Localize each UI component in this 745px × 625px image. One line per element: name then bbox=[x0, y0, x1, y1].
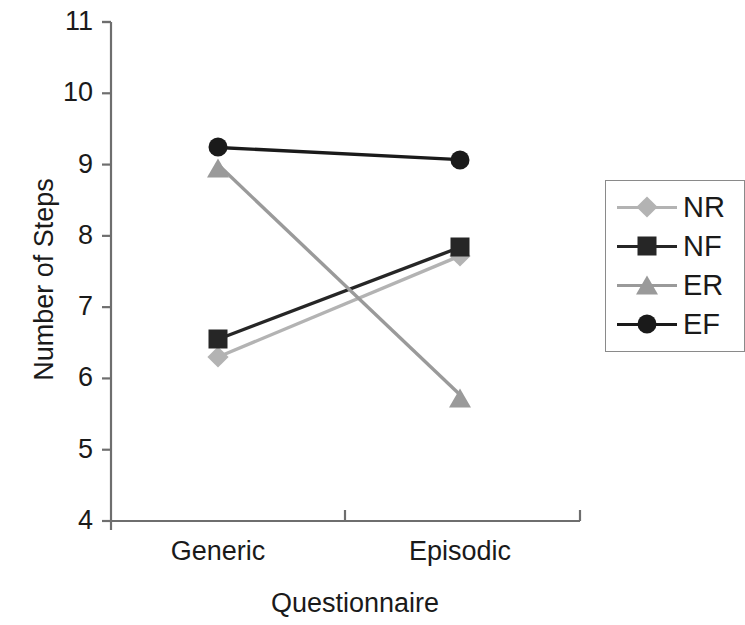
y-tick-label: 5 bbox=[33, 436, 93, 463]
y-tick-label: 7 bbox=[33, 293, 93, 320]
series-lines bbox=[218, 147, 460, 394]
legend-label: NF bbox=[683, 232, 722, 261]
legend-item-er[interactable]: ER bbox=[606, 268, 745, 302]
y-tick-label: 4 bbox=[33, 507, 93, 534]
data-point-ef-episodic bbox=[451, 150, 470, 169]
data-point-ef-generic bbox=[209, 138, 228, 157]
legend-item-nf[interactable]: NF bbox=[606, 229, 745, 263]
legend-item-nr[interactable]: NR bbox=[606, 190, 745, 224]
legend-marker-diamond-icon bbox=[636, 196, 657, 217]
legend-sample-nf bbox=[617, 231, 677, 261]
y-tick-label: 11 bbox=[33, 8, 93, 35]
legend-marker-triangle-icon bbox=[636, 276, 658, 295]
y-tick-label: 9 bbox=[33, 151, 93, 178]
x-tick-label: Generic bbox=[128, 538, 308, 565]
legend-sample-er bbox=[617, 270, 677, 300]
data-point-er-episodic bbox=[449, 388, 471, 407]
legend-marker-circle-icon bbox=[638, 315, 657, 334]
data-point-nf-generic bbox=[209, 330, 228, 349]
legend-sample-nr bbox=[617, 192, 677, 222]
data-point-nf-episodic bbox=[451, 238, 470, 257]
legend-marker-square-icon bbox=[638, 237, 657, 256]
y-tick-label: 10 bbox=[33, 79, 93, 106]
axis-lines bbox=[102, 22, 580, 530]
x-tick-label: Episodic bbox=[370, 538, 550, 565]
chart-legend: NRNFEREF bbox=[605, 180, 745, 352]
y-tick-label: 6 bbox=[33, 364, 93, 391]
legend-label: EF bbox=[683, 310, 720, 339]
legend-item-ef[interactable]: EF bbox=[606, 307, 745, 341]
legend-sample-ef bbox=[617, 309, 677, 339]
legend-label: ER bbox=[683, 271, 723, 300]
y-tick-label: 8 bbox=[33, 222, 93, 249]
legend-label: NR bbox=[683, 193, 725, 222]
data-point-er-generic bbox=[207, 158, 229, 177]
